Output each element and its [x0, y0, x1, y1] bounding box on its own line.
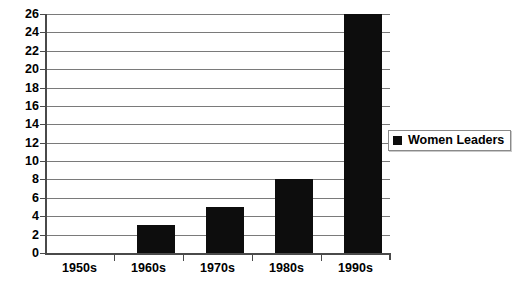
bar-1990s	[344, 14, 382, 253]
gridline	[45, 106, 390, 107]
gridline	[45, 179, 390, 180]
y-axis-label: 22	[5, 45, 39, 58]
gridline	[45, 51, 390, 52]
y-axis-label: 14	[5, 118, 39, 131]
y-axis-label: 0	[5, 247, 39, 260]
bar-1960s	[137, 225, 175, 253]
gridline	[45, 198, 390, 199]
legend-swatch-icon	[393, 136, 402, 145]
y-axis-label: 8	[5, 173, 39, 186]
x-axis-label-1980s: 1980s	[252, 262, 321, 275]
bar-1970s	[206, 207, 244, 253]
legend-label: Women Leaders	[408, 134, 504, 147]
gridline	[45, 124, 390, 125]
x-axis-tick-labels: 1950s1960s1970s1980s1990s	[45, 262, 391, 286]
plot-area	[45, 14, 390, 253]
x-axis-label-1990s: 1990s	[321, 262, 390, 275]
y-axis-label: 10	[5, 155, 39, 168]
bar-chart: 02468101214161820222426 1950s1960s1970s1…	[0, 0, 532, 299]
y-axis-label: 12	[5, 137, 39, 150]
bar-1980s	[275, 179, 313, 253]
x-tick-mark	[114, 253, 115, 261]
x-tick-mark	[321, 253, 322, 261]
y-axis-label: 2	[5, 229, 39, 242]
y-axis-label: 16	[5, 100, 39, 113]
y-axis-label: 18	[5, 82, 39, 95]
y-axis-tick-labels: 02468101214161820222426	[0, 14, 39, 254]
gridline	[45, 161, 390, 162]
gridline	[45, 69, 390, 70]
gridline	[45, 14, 390, 15]
gridline	[45, 32, 390, 33]
gridline	[45, 143, 390, 144]
y-axis-label: 20	[5, 63, 39, 76]
y-axis-label: 24	[5, 26, 39, 39]
x-axis-line	[45, 253, 391, 255]
x-axis-end-tick	[389, 253, 391, 260]
chart-legend: Women Leaders	[388, 130, 511, 151]
x-axis-label-1960s: 1960s	[114, 262, 183, 275]
x-axis-label-1970s: 1970s	[183, 262, 252, 275]
y-axis-label: 26	[5, 8, 39, 21]
y-axis-line	[45, 14, 47, 254]
y-axis-label: 4	[5, 210, 39, 223]
x-axis-label-1950s: 1950s	[45, 262, 114, 275]
y-axis-label: 6	[5, 192, 39, 205]
x-tick-mark	[252, 253, 253, 261]
x-tick-mark	[183, 253, 184, 261]
gridline	[45, 88, 390, 89]
